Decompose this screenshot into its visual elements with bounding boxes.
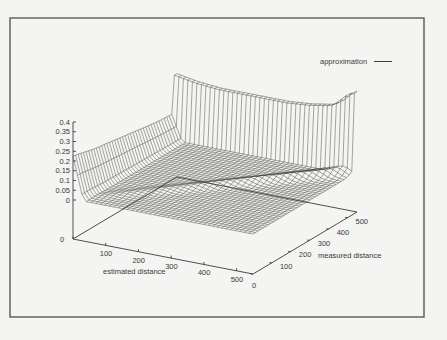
surface-plot-figure: 0100200300400500010020030040050000.050.1… <box>0 0 447 340</box>
z-tick-label: 0.35 <box>55 127 70 136</box>
legend-label: approximation <box>320 57 367 66</box>
x-tick-label: 400 <box>198 268 211 277</box>
y-tick-label: 0 <box>252 281 256 290</box>
x-tick-label: 200 <box>132 256 145 265</box>
y-tick-label: 500 <box>356 217 369 226</box>
y-tick-label: 300 <box>318 239 331 248</box>
z-tick-label: 0.4 <box>60 118 70 127</box>
y-tick-label: 200 <box>299 250 312 259</box>
x-tick-label: 100 <box>100 249 113 258</box>
z-tick-label: 0 <box>66 196 70 205</box>
z-tick-label: 0.25 <box>55 147 70 156</box>
mesh-line-y <box>177 74 357 105</box>
z-tick-label: 0.05 <box>55 186 70 195</box>
x-tick-label: 500 <box>231 275 244 284</box>
y-tick-label: 400 <box>337 228 350 237</box>
z-tick-label: 0.15 <box>55 166 70 175</box>
mesh-line-x <box>96 82 200 203</box>
legend: approximation <box>320 57 392 66</box>
z-tick-label: 0.1 <box>60 176 70 185</box>
base-back-line <box>177 177 357 212</box>
mesh-line-x <box>199 103 303 224</box>
mesh-line-x <box>109 86 213 206</box>
x-tick-label: 0 <box>60 235 64 244</box>
surface-mesh <box>73 74 357 234</box>
x-tick-label: 300 <box>165 262 178 271</box>
mesh-line-y <box>135 131 315 197</box>
mesh-line-x <box>73 74 177 157</box>
y-axis-label: measured distance <box>318 251 381 260</box>
z-tick-label: 0.3 <box>60 137 70 146</box>
x-axis-label: estimated distance <box>103 267 166 276</box>
y-tick-label: 100 <box>280 262 293 271</box>
z-tick-label: 0.2 <box>60 157 70 166</box>
mesh-line-x <box>195 102 299 222</box>
